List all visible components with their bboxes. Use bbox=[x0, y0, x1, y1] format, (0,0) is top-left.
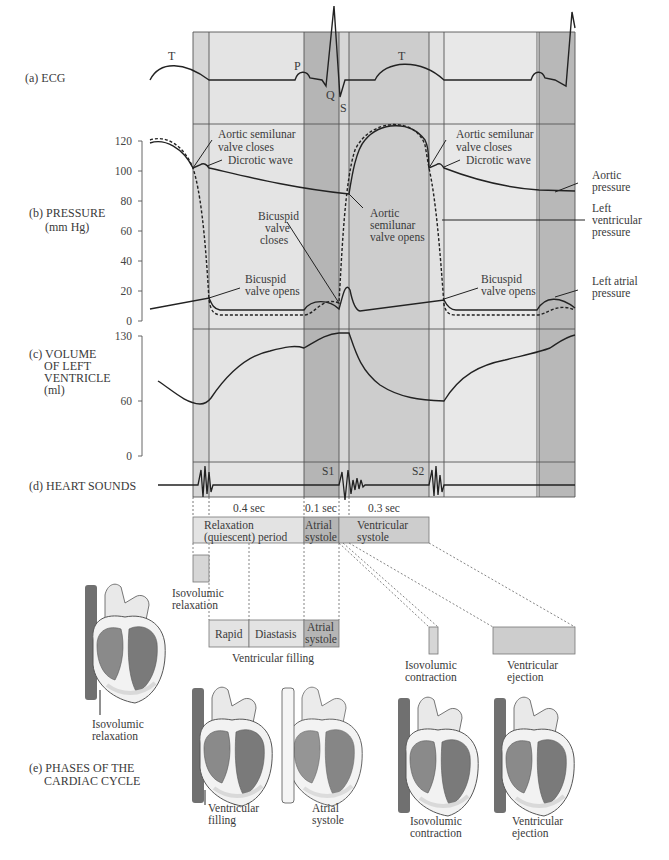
ecg-t-wave-label: T bbox=[168, 49, 176, 63]
phase-diastasis: Diastasis bbox=[255, 628, 297, 640]
ecg-label: (a) ECG bbox=[25, 71, 66, 85]
pressure-axis bbox=[138, 141, 142, 321]
vol-tick-130: 130 bbox=[115, 330, 133, 342]
heart-caption-1b: relaxation bbox=[92, 730, 138, 742]
isovolumic-relaxation-2: relaxation bbox=[172, 599, 218, 611]
tick-0: 0 bbox=[126, 315, 132, 327]
period-relaxation-1: Relaxation bbox=[204, 519, 254, 531]
bicuspid-closes-label-2: valve bbox=[265, 222, 290, 234]
legend-ventricular-1: Left bbox=[592, 202, 612, 214]
tick-20: 20 bbox=[121, 285, 133, 297]
legend-aortic-2: pressure bbox=[592, 181, 630, 194]
section-e-label-2: CARDIAC CYCLE bbox=[44, 774, 140, 788]
pressure-unit-label: (mm Hg) bbox=[45, 220, 89, 234]
heart-caption-4a: Isovolumic bbox=[410, 815, 462, 827]
heart-caption-1a: Isovolumic bbox=[92, 718, 144, 730]
timeline: 0.4 sec 0.1 sec 0.3 sec Relaxation (quie… bbox=[172, 497, 575, 684]
legend-ventricular-2: ventricular bbox=[592, 214, 642, 226]
bicuspid-opens-left-label-2: valve opens bbox=[245, 285, 300, 298]
heart-atrial-systole-icon: Atrial systole bbox=[282, 687, 362, 827]
heart-caption-5a: Ventricular bbox=[512, 815, 563, 827]
aortic-closes-right-label-2: valve closes bbox=[456, 141, 512, 153]
s2-label: S2 bbox=[412, 465, 424, 477]
tick-100: 100 bbox=[115, 165, 133, 177]
legend-aortic-1: Aortic bbox=[592, 169, 621, 181]
aortic-closes-label-2: valve closes bbox=[218, 141, 274, 153]
period-atrial-2: systole bbox=[305, 531, 337, 544]
heart-caption-5b: ejection bbox=[512, 827, 549, 840]
aortic-opens-label-1: Aortic bbox=[370, 207, 399, 219]
ecg-s-wave-label: S bbox=[340, 101, 347, 115]
ecg-p-wave-label: P bbox=[294, 59, 301, 73]
cardiac-cycle-figure: (a) ECG T P Q S T (b) PRESSURE (mm Hg) 1… bbox=[0, 0, 669, 860]
aortic-closes-right-label-1: Aortic semilunar bbox=[456, 128, 534, 140]
heart-isovolumic-contraction-icon: Isovolumic contraction bbox=[398, 697, 478, 839]
duration-atrial: 0.1 sec bbox=[305, 502, 337, 514]
bicuspid-closes-label-3: closes bbox=[260, 234, 289, 246]
phase-atrial-2: systole bbox=[305, 633, 337, 646]
pressure-label: (b) PRESSURE bbox=[29, 206, 105, 220]
phase-rapid: Rapid bbox=[215, 628, 243, 641]
heart-sounds-label: (d) HEART SOUNDS bbox=[29, 479, 136, 493]
legend-atrial-1: Left atrial bbox=[592, 275, 638, 287]
vol-tick-0: 0 bbox=[126, 450, 132, 462]
heart-isovolumic-relaxation-icon: Isovolumic relaxation bbox=[85, 584, 165, 742]
volume-label-4: (ml) bbox=[44, 383, 65, 397]
aortic-opens-label-3: valve opens bbox=[370, 231, 425, 244]
s1-label: S1 bbox=[322, 465, 334, 477]
phase-bands bbox=[193, 32, 575, 497]
tick-80: 80 bbox=[121, 195, 133, 207]
duration-ventricular: 0.3 sec bbox=[368, 502, 400, 514]
vol-tick-60: 60 bbox=[121, 395, 133, 407]
duration-relaxation: 0.4 sec bbox=[233, 502, 265, 514]
bicuspid-opens-right-label-2: valve opens bbox=[481, 285, 536, 298]
heart-ventricular-ejection-icon: Ventricular ejection bbox=[494, 697, 574, 840]
ventricular-filling-label: Ventricular filling bbox=[232, 652, 314, 665]
period-ventricular-2: systole bbox=[357, 531, 389, 544]
dicrotic-wave-label-left: Dicrotic wave bbox=[228, 154, 293, 166]
heart-caption-2a: Ventricular bbox=[208, 802, 259, 814]
aortic-closes-label-1: Aortic semilunar bbox=[218, 128, 296, 140]
isovolumic-contraction-1: Isovolumic bbox=[405, 659, 457, 671]
ventricular-ejection-2: ejection bbox=[507, 671, 544, 684]
section-e-label-1: (e) PHASES OF THE bbox=[29, 761, 134, 775]
heart-caption-4b: contraction bbox=[410, 827, 462, 839]
period-ventricular-1: Ventricular bbox=[357, 519, 408, 531]
dicrotic-wave-label-right: Dicrotic wave bbox=[466, 154, 531, 166]
heart-ventricular-filling-icon: Ventricular filling bbox=[192, 687, 272, 827]
isovolumic-relaxation-1: Isovolumic bbox=[172, 587, 224, 599]
tick-120: 120 bbox=[115, 135, 133, 147]
tick-60: 60 bbox=[121, 225, 133, 237]
heart-caption-3b: systole bbox=[312, 814, 344, 827]
period-relaxation-2: (quiescent) period bbox=[204, 531, 288, 544]
legend-atrial-2: pressure bbox=[592, 287, 630, 300]
heart-caption-2b: filling bbox=[208, 814, 236, 827]
aortic-opens-label-2: semilunar bbox=[370, 219, 416, 231]
ecg-q-wave-label: Q bbox=[326, 88, 335, 102]
period-atrial-1: Atrial bbox=[305, 519, 332, 531]
tick-40: 40 bbox=[121, 255, 133, 267]
ecg-t2-wave-label: T bbox=[398, 49, 406, 63]
ventricular-ejection-1: Ventricular bbox=[507, 659, 558, 671]
legend-ventricular-3: pressure bbox=[592, 226, 630, 239]
phase-atrial-1: Atrial bbox=[307, 621, 334, 633]
heart-caption-3a: Atrial bbox=[312, 802, 339, 814]
isovolumic-contraction-2: contraction bbox=[405, 671, 457, 683]
